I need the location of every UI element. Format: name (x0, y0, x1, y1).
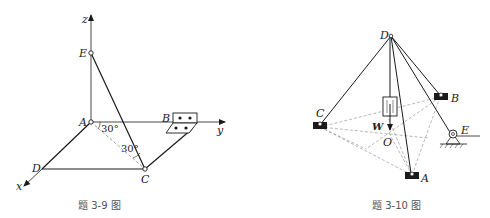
point-label-C: C (141, 173, 150, 186)
support-B (434, 93, 448, 100)
support-A (405, 172, 419, 179)
angle-arc-1 (98, 122, 100, 129)
dashed-geometry (320, 97, 440, 175)
point-label-B: B (450, 92, 459, 105)
point-label-O: O (383, 136, 392, 149)
angle-label-1: 30° (101, 123, 119, 134)
hinge-C (143, 167, 147, 171)
caption-3-9: 题 3-9 图 (78, 200, 121, 211)
point-label-B: B (161, 112, 170, 125)
point-label-C: C (316, 107, 325, 120)
point-label-A: A (78, 116, 87, 129)
x-axis-label: x (16, 180, 23, 193)
point-label-D: D (31, 162, 41, 175)
figure-3-10: W (313, 29, 480, 211)
edge-CB (145, 129, 192, 169)
y-axis-label: y (216, 124, 224, 137)
point-label-A: A (420, 172, 429, 185)
ring-D (389, 34, 393, 38)
winch-E (440, 130, 480, 148)
hinge-E (89, 51, 93, 55)
z-axis-label: z (81, 13, 88, 26)
figure-3-9: z y x 30° 30° (16, 13, 225, 211)
diagram-canvas: z y x 30° 30° (0, 0, 490, 218)
edge-AD (42, 122, 91, 169)
hinge-A (89, 120, 93, 124)
cable-DE (391, 36, 451, 134)
point-label-E: E (78, 47, 87, 60)
bracket-B (166, 113, 197, 133)
support-C (313, 122, 327, 129)
point-label-E: E (460, 124, 469, 137)
angle-label-2: 30° (121, 143, 139, 154)
point-label-D: D (379, 29, 389, 42)
caption-3-10: 题 3-10 图 (372, 200, 421, 211)
weight-label: W (372, 121, 385, 132)
